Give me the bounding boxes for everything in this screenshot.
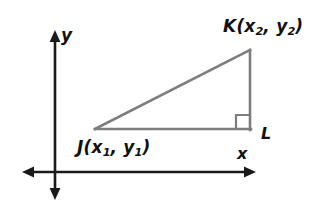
triangle-group [95, 50, 251, 130]
axes-group [22, 30, 256, 200]
y-axis-arrowhead-down [50, 188, 61, 200]
triangle-side-jk-hypotenuse [95, 50, 250, 129]
x-axis-arrowhead-left [22, 167, 34, 178]
x-axis-label: x [237, 146, 248, 162]
vertex-label-j: J(x1, y1) [77, 139, 150, 156]
y-axis-arrowhead-up [50, 30, 61, 42]
vertex-label-l: L [261, 126, 271, 142]
right-angle-marker-icon [236, 115, 249, 128]
y-axis-label: y [61, 27, 72, 44]
x-axis-arrowhead-right [244, 167, 256, 178]
geometry-figure: K(x2, y2) J(x1, y1) L x y [0, 0, 330, 218]
vertex-label-k: K(x2, y2) [223, 18, 303, 35]
